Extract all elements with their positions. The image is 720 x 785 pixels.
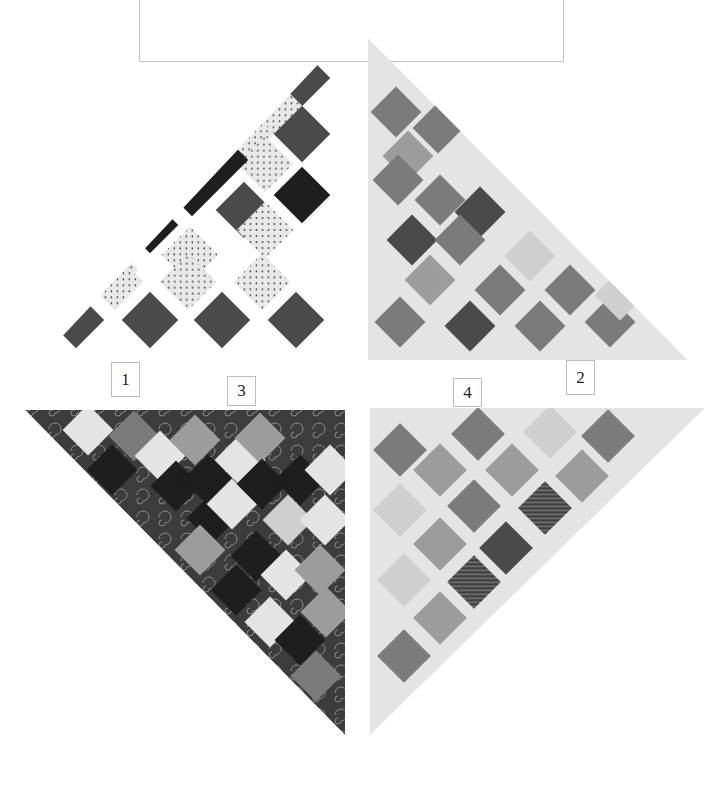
quilt-square — [194, 292, 251, 349]
quilt-square — [164, 160, 221, 217]
block-1-top-left — [48, 50, 331, 349]
block-4-bottom-right — [370, 405, 705, 735]
block-3-bottom-left — [25, 405, 355, 735]
block-number-label-3: 3 — [227, 376, 256, 406]
quilt-square — [87, 254, 144, 311]
quilt-figure — [0, 0, 720, 785]
quilt-square — [268, 292, 325, 349]
quilt-square — [234, 254, 291, 311]
block-number-label-4: 4 — [453, 378, 482, 407]
block-number-label-1: 1 — [111, 362, 140, 397]
block-number-label-2: 2 — [566, 360, 595, 395]
quilt-square — [192, 132, 249, 189]
quilt-square — [274, 167, 331, 224]
quilt-square — [274, 50, 331, 107]
quilt-square — [122, 292, 179, 349]
block-2-top-right — [368, 38, 688, 360]
quilt-square — [48, 292, 105, 349]
quilt-square — [122, 197, 179, 254]
